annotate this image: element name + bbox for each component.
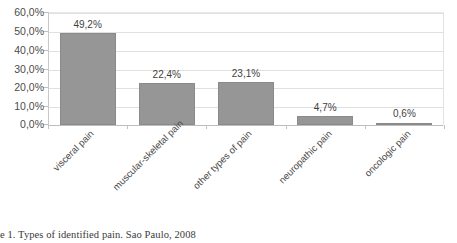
y-axis-label-40: 40,0% [2,44,44,55]
bar-slot-oncologic-pain: 0,6% [365,12,444,125]
bar-oncologic-pain[interactable] [376,123,432,125]
y-axis-label-30: 30,0% [2,63,44,74]
y-axis-labels: 60,0% 50,0% 40,0% 30,0% 20,0% 10,0% 0,0% [0,12,44,125]
bar-slot-visceral-pain: 49,2% [48,12,127,125]
y-axis-label-20: 20,0% [2,82,44,93]
bar-slot-other-types-of-pain: 23,1% [206,12,285,125]
chart-screenshot: 60,0% 50,0% 40,0% 30,0% 20,0% 10,0% 0,0%… [0,0,457,243]
bar-value-other-types-of-pain: 23,1% [232,69,260,79]
bar-value-visceral-pain: 49,2% [73,20,101,30]
gridline-0-baseline [48,125,443,126]
y-axis-label-50: 50,0% [2,26,44,37]
x-axis-category-labels: visceral pain muscular-skeletal pain oth… [48,128,444,216]
bar-value-muscular-skeletal-pain: 22,4% [153,70,181,80]
y-axis-label-60: 60,0% [2,7,44,18]
x-axis-label-other-types-of-pain: other types of pain [190,128,254,192]
y-axis-label-0: 0,0% [2,119,44,130]
bar-muscular-skeletal-pain[interactable] [139,83,195,125]
y-axis-label-10: 10,0% [2,101,44,112]
bar-value-neuropathic-pain: 4,7% [314,103,337,113]
bars-layer: 49,2% 22,4% 23,1% 4,7% 0,6% [48,12,444,125]
x-axis-label-neuropathic-pain: neuropathic pain [269,128,333,192]
bar-value-oncologic-pain: 0,6% [393,109,416,119]
bar-slot-neuropathic-pain: 4,7% [286,12,365,125]
bar-slot-muscular-skeletal-pain: 22,4% [127,12,206,125]
bar-neuropathic-pain[interactable] [297,116,353,125]
bar-other-types-of-pain[interactable] [218,82,274,125]
figure-caption: e 1. Types of identified pain. Sao Paulo… [0,229,196,240]
x-axis-label-visceral-pain: visceral pain [31,128,95,192]
bar-visceral-pain[interactable] [60,33,116,125]
x-axis-label-muscular-skeletal-pain: muscular-skeletal pain [111,128,175,192]
x-axis-label-oncologic-pain: oncologic pain [348,128,412,192]
